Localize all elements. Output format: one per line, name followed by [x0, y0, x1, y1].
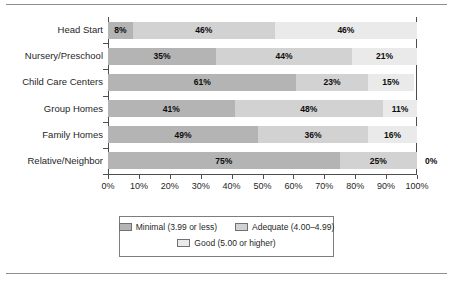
bar-segment-value-label: 16%	[384, 130, 401, 140]
x-axis-tick-mark	[355, 175, 356, 179]
bar-segment: 25%	[340, 152, 417, 169]
bar-segment-value-label: 36%	[304, 130, 321, 140]
bar-segment: 11%	[383, 100, 417, 117]
legend-row-2: Good (5.00 or higher)	[120, 238, 333, 248]
x-axis-tick-label: 100%	[405, 181, 428, 191]
y-axis-tick-label: Family Homes	[3, 129, 103, 140]
bar-segment-value-label: 75%	[215, 156, 232, 166]
plot-area: 8%46%46%35%44%21%61%23%15%41%48%11%49%36…	[108, 17, 417, 174]
x-axis-tick-label: 70%	[315, 181, 333, 191]
x-axis-tick-label: 20%	[161, 181, 179, 191]
bar-row: 8%46%46%	[108, 22, 417, 39]
chart-legend: Minimal (3.99 or less) Adequate (4.00–4.…	[119, 216, 334, 257]
bar-segment-value-label: 61%	[194, 77, 211, 87]
bar-row: 75%25%	[108, 152, 417, 169]
x-axis-tick-mark	[386, 175, 387, 179]
bar-segment-value-label: 35%	[154, 51, 171, 61]
x-axis-tick-mark	[232, 175, 233, 179]
bar-segment: 49%	[108, 126, 258, 143]
bar-outside-value-label: 0%	[425, 156, 437, 166]
bar-segment-value-label: 21%	[376, 51, 393, 61]
bar-segment: 36%	[258, 126, 368, 143]
bar-segment-value-label: 8%	[114, 25, 126, 35]
y-axis-tick-mark	[103, 96, 109, 97]
y-axis-tick-mark	[103, 69, 109, 70]
bar-segment: 41%	[108, 100, 235, 117]
x-axis-tick-label: 30%	[192, 181, 210, 191]
bar-row: 41%48%11%	[108, 100, 417, 117]
legend-item-good: Good (5.00 or higher)	[177, 238, 275, 248]
x-axis-tick-mark	[139, 175, 140, 179]
legend-label-minimal: Minimal (3.99 or less)	[136, 222, 217, 232]
x-axis-tick-label: 10%	[130, 181, 148, 191]
x-axis-tick-label: 90%	[377, 181, 395, 191]
bar-segment-value-label: 44%	[276, 51, 293, 61]
bar-segment-value-label: 15%	[382, 77, 399, 87]
y-axis-tick-label: Head Start	[3, 24, 103, 35]
bar-segment-value-label: 48%	[300, 104, 317, 114]
bar-segment: 48%	[235, 100, 383, 117]
legend-swatch-minimal	[119, 223, 132, 231]
x-axis-tick-label: 0%	[101, 181, 114, 191]
legend-swatch-adequate	[235, 223, 248, 231]
legend-row-1: Minimal (3.99 or less) Adequate (4.00–4.…	[120, 222, 333, 232]
legend-label-good: Good (5.00 or higher)	[194, 238, 275, 248]
y-axis-tick-mark	[103, 43, 109, 44]
bar-segment-value-label: 25%	[370, 156, 387, 166]
x-axis-tick-label: 60%	[284, 181, 302, 191]
x-axis-tick-label: 40%	[223, 181, 241, 191]
bar-segment: 8%	[108, 22, 133, 39]
bar-segment: 15%	[368, 74, 414, 91]
legend-label-adequate: Adequate (4.00–4.99)	[252, 222, 334, 232]
bar-segment-value-label: 11%	[392, 104, 409, 114]
bar-row: 35%44%21%	[108, 48, 417, 65]
bar-segment-value-label: 49%	[174, 130, 191, 140]
bar-segment: 21%	[352, 48, 417, 65]
x-axis-tick-label: 80%	[346, 181, 364, 191]
legend-item-minimal: Minimal (3.99 or less)	[119, 222, 217, 232]
bar-row: 61%23%15%	[108, 74, 417, 91]
bar-segment: 46%	[275, 22, 417, 39]
bar-row: 49%36%16%	[108, 126, 417, 143]
x-axis-tick-mark	[108, 175, 109, 179]
bar-segment: 46%	[133, 22, 275, 39]
legend-item-adequate: Adequate (4.00–4.99)	[235, 222, 334, 232]
bar-segment-value-label: 46%	[337, 25, 354, 35]
bar-segment: 61%	[108, 74, 296, 91]
x-axis-tick-mark	[417, 175, 418, 179]
legend-swatch-good	[177, 239, 190, 247]
bar-segment-value-label: 23%	[324, 77, 341, 87]
y-axis-tick-label: Child Care Centers	[3, 76, 103, 87]
x-axis-tick-label: 50%	[253, 181, 271, 191]
x-axis-tick-mark	[293, 175, 294, 179]
bar-segment-value-label: 41%	[163, 104, 180, 114]
bar-segment: 75%	[108, 152, 340, 169]
y-axis-tick-label: Nursery/Preschool	[3, 50, 103, 61]
y-axis-category-labels: Head StartNursery/PreschoolChild Care Ce…	[0, 17, 103, 174]
chart-figure: Head StartNursery/PreschoolChild Care Ce…	[0, 0, 453, 285]
top-divider-rule	[6, 4, 447, 5]
y-axis-tick-label: Group Homes	[3, 103, 103, 114]
bar-segment: 23%	[296, 74, 367, 91]
y-axis-tick-mark	[103, 122, 109, 123]
x-axis-tick-mark	[170, 175, 171, 179]
bar-segment: 44%	[216, 48, 352, 65]
bar-segment: 16%	[368, 126, 417, 143]
x-axis-tick-mark	[263, 175, 264, 179]
x-axis-tick-mark	[324, 175, 325, 179]
y-axis-tick-mark	[103, 148, 109, 149]
bottom-divider-rule	[6, 273, 447, 274]
y-axis-tick-label: Relative/Neighbor	[3, 155, 103, 166]
bar-segment-value-label: 46%	[195, 25, 212, 35]
bar-segment: 35%	[108, 48, 216, 65]
x-axis-tick-mark	[201, 175, 202, 179]
